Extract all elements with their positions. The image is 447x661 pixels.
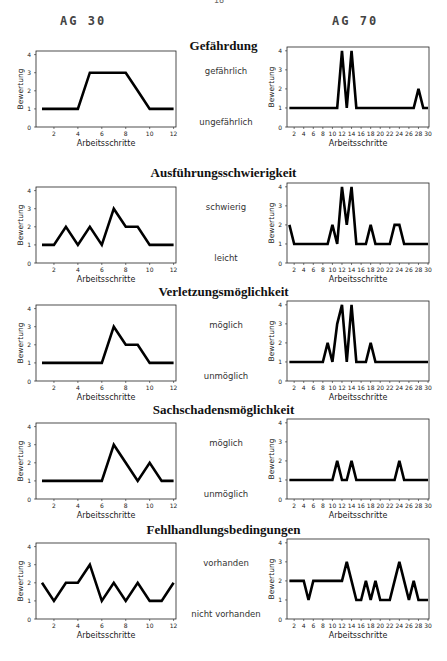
svg-text:20: 20 [376, 384, 384, 391]
svg-text:4: 4 [278, 419, 282, 426]
svg-text:1: 1 [278, 358, 282, 365]
svg-text:30: 30 [424, 502, 432, 509]
svg-text:8: 8 [124, 622, 128, 629]
svg-text:1: 1 [27, 241, 31, 248]
svg-text:4: 4 [278, 183, 282, 190]
svg-text:2: 2 [278, 339, 282, 346]
data-line [42, 565, 174, 601]
svg-text:20: 20 [376, 502, 384, 509]
svg-text:26: 26 [405, 266, 413, 273]
data-line [289, 461, 428, 480]
svg-text:2: 2 [292, 266, 296, 273]
svg-text:30: 30 [424, 384, 432, 391]
svg-text:28: 28 [415, 622, 423, 629]
svg-text:8: 8 [321, 266, 325, 273]
svg-text:2: 2 [52, 622, 56, 629]
data-line [289, 305, 428, 362]
svg-text:12: 12 [338, 130, 346, 137]
svg-text:6: 6 [311, 502, 315, 509]
svg-text:22: 22 [386, 622, 394, 629]
svg-text:10: 10 [146, 622, 154, 629]
svg-text:26: 26 [405, 502, 413, 509]
svg-text:Bewertung: Bewertung [267, 558, 276, 599]
svg-text:14: 14 [348, 384, 356, 391]
svg-text:1: 1 [278, 240, 282, 247]
svg-text:28: 28 [415, 266, 423, 273]
svg-text:0: 0 [278, 616, 282, 623]
svg-text:4: 4 [27, 305, 31, 312]
line-chart: 0123424681012141618202224262830Bewertung… [262, 42, 444, 162]
svg-text:3: 3 [27, 441, 31, 448]
svg-text:18: 18 [367, 502, 375, 509]
svg-text:2: 2 [292, 130, 296, 137]
svg-text:2: 2 [27, 579, 31, 586]
column-heading-left: AG 30 [60, 14, 106, 28]
svg-text:26: 26 [405, 130, 413, 137]
svg-text:14: 14 [348, 266, 356, 273]
svg-text:Bewertung: Bewertung [16, 560, 25, 601]
svg-text:10: 10 [146, 130, 154, 137]
svg-text:3: 3 [278, 320, 282, 327]
svg-text:Arbeitsschritte: Arbeitsschritte [77, 631, 136, 640]
svg-text:12: 12 [338, 266, 346, 273]
svg-text:2: 2 [278, 577, 282, 584]
svg-text:2: 2 [292, 622, 296, 629]
line-chart: 0123424681012141618202224262830Bewertung… [262, 178, 444, 298]
svg-text:Arbeitsschritte: Arbeitsschritte [329, 393, 388, 402]
svg-text:0: 0 [278, 124, 282, 131]
svg-text:10: 10 [329, 130, 337, 137]
svg-text:3: 3 [27, 323, 31, 330]
line-chart: 0123424681012141618202224262830Bewertung… [262, 296, 444, 416]
svg-text:28: 28 [415, 384, 423, 391]
svg-text:Arbeitsschritte: Arbeitsschritte [77, 275, 136, 284]
svg-text:1: 1 [278, 476, 282, 483]
line-chart: 0123424681012BewertungArbeitsschritte [11, 300, 191, 416]
svg-text:3: 3 [278, 202, 282, 209]
svg-text:10: 10 [329, 384, 337, 391]
svg-text:3: 3 [27, 69, 31, 76]
svg-text:8: 8 [321, 502, 325, 509]
svg-text:30: 30 [424, 622, 432, 629]
svg-text:0: 0 [27, 378, 31, 385]
svg-text:2: 2 [52, 266, 56, 273]
svg-text:1: 1 [27, 597, 31, 604]
data-line [289, 51, 428, 108]
svg-text:6: 6 [100, 266, 104, 273]
svg-text:2: 2 [52, 384, 56, 391]
svg-text:Arbeitsschritte: Arbeitsschritte [329, 139, 388, 148]
svg-text:Bewertung: Bewertung [267, 438, 276, 479]
svg-text:22: 22 [386, 130, 394, 137]
svg-text:18: 18 [367, 384, 375, 391]
svg-text:24: 24 [396, 266, 404, 273]
svg-text:Bewertung: Bewertung [267, 66, 276, 107]
column-heading-right: AG 70 [332, 14, 378, 28]
svg-text:18: 18 [367, 130, 375, 137]
data-line [289, 187, 428, 244]
svg-text:4: 4 [76, 622, 80, 629]
svg-text:3: 3 [278, 558, 282, 565]
svg-text:4: 4 [76, 130, 80, 137]
svg-text:Arbeitsschritte: Arbeitsschritte [329, 631, 388, 640]
svg-text:4: 4 [278, 539, 282, 546]
svg-text:8: 8 [124, 266, 128, 273]
svg-text:4: 4 [302, 266, 306, 273]
svg-text:0: 0 [27, 616, 31, 623]
svg-text:Bewertung: Bewertung [16, 440, 25, 481]
svg-text:Arbeitsschritte: Arbeitsschritte [329, 511, 388, 520]
svg-text:20: 20 [376, 622, 384, 629]
svg-text:4: 4 [76, 384, 80, 391]
svg-text:8: 8 [321, 622, 325, 629]
svg-text:1: 1 [278, 596, 282, 603]
svg-text:10: 10 [146, 266, 154, 273]
svg-text:16: 16 [357, 502, 365, 509]
svg-text:10: 10 [329, 622, 337, 629]
svg-text:3: 3 [278, 66, 282, 73]
svg-text:Arbeitsschritte: Arbeitsschritte [329, 275, 388, 284]
svg-text:24: 24 [396, 130, 404, 137]
line-chart: 0123424681012141618202224262830Bewertung… [262, 534, 444, 654]
svg-text:18: 18 [367, 266, 375, 273]
svg-text:3: 3 [278, 438, 282, 445]
svg-text:0: 0 [27, 260, 31, 267]
svg-text:22: 22 [386, 502, 394, 509]
data-line [42, 73, 174, 109]
